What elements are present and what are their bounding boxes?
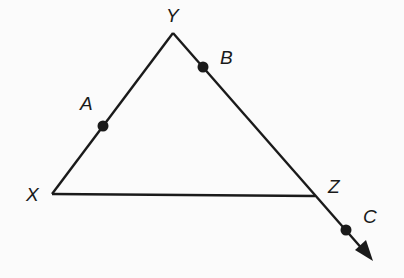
point-c bbox=[341, 225, 352, 236]
triangle-diagram: X Y Z A B C bbox=[0, 0, 404, 278]
label-x: X bbox=[25, 184, 40, 205]
label-z: Z bbox=[327, 176, 341, 197]
label-y: Y bbox=[166, 5, 180, 26]
point-a bbox=[98, 121, 109, 132]
label-b: B bbox=[220, 47, 233, 68]
label-a: A bbox=[79, 93, 93, 114]
segment-xz bbox=[52, 194, 315, 196]
segment-xy bbox=[52, 33, 173, 194]
diagram-svg: X Y Z A B C bbox=[0, 0, 404, 278]
label-c: C bbox=[363, 206, 377, 227]
point-b bbox=[198, 62, 209, 73]
